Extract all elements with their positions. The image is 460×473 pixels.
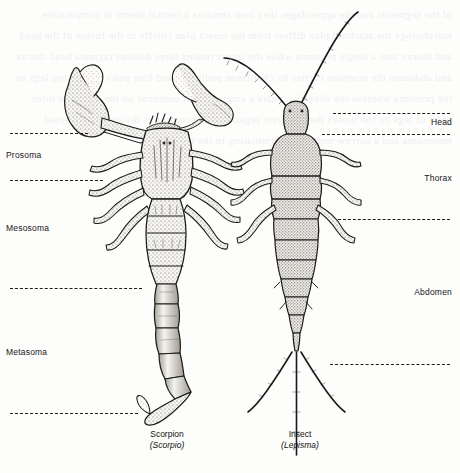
leader-line-prosoma-top: [10, 133, 88, 134]
leader-line-abdomen-bottom: [330, 364, 450, 365]
insect-abdomen: [274, 219, 319, 351]
scorpion-illustration: [65, 64, 244, 425]
leader-line-head-top: [333, 113, 450, 114]
label-head: Head: [431, 117, 452, 127]
insect-head: [284, 101, 309, 134]
leader-line-head-bottom: [322, 134, 450, 135]
label-thorax: Thorax: [424, 173, 452, 183]
caption-scorpion-scientific: (Scorpio): [117, 440, 217, 451]
insect-antennae: [224, 12, 358, 107]
insect-right-legs: [316, 150, 361, 243]
insect-illustration: [224, 12, 361, 455]
label-metasoma: Metasoma: [6, 347, 47, 357]
scorpion-right-pedipalp: [170, 64, 233, 131]
insect-left-legs: [231, 150, 276, 243]
leader-line-mesosoma-bottom: [10, 288, 142, 289]
leader-line-thorax-bottom: [338, 219, 450, 220]
caption-insect-scientific: (Lepisma): [250, 440, 350, 451]
figure-stage: Prosoma Mesosoma Metasoma Head Thorax Ab…: [0, 0, 460, 473]
scorpion-metasoma: [137, 284, 191, 425]
label-abdomen: Abdomen: [414, 287, 452, 297]
caption-scorpion-common: Scorpion: [150, 429, 184, 439]
label-mesosoma: Mesosoma: [6, 223, 49, 233]
scorpion-mesosoma: [146, 199, 186, 284]
leader-line-prosoma-bottom: [10, 180, 103, 181]
illustration-artwork: [0, 0, 460, 473]
insect-thorax: [271, 134, 322, 219]
label-prosoma: Prosoma: [6, 150, 41, 160]
caption-insect: Insect (Lepisma): [250, 429, 350, 450]
leader-line-metasoma-bottom: [10, 413, 138, 414]
insect-antennae-segments: [227, 22, 349, 104]
scorpion-prosoma: [140, 128, 193, 199]
caption-scorpion: Scorpion (Scorpio): [117, 429, 217, 450]
caption-insect-common: Insect: [289, 429, 312, 439]
